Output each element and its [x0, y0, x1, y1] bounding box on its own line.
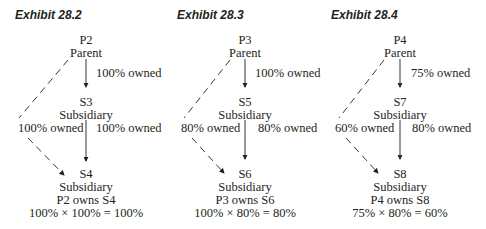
bottom-node: S8 Subsidiary P4 owns S8 75% × 80% = 60%	[340, 168, 460, 220]
exhibit-28-4: Exhibit 28.4 P4 Parent 75% owned S7 Subs…	[324, 0, 486, 229]
exhibit-28-2: Exhibit 28.2 P2 Parent 100% owned S3 Sub…	[0, 0, 162, 229]
parent-node: P4 Parent	[375, 34, 425, 60]
indirect-ownership-label: 80% owned	[181, 122, 240, 135]
exhibit-title: Exhibit 28.3	[177, 8, 244, 22]
exhibit-title: Exhibit 28.2	[15, 8, 82, 22]
node-role: Parent	[220, 47, 270, 60]
parent-to-middle-label: 75% owned	[411, 67, 470, 80]
middle-to-bottom-label: 100% owned	[96, 122, 162, 135]
exhibit-28-3: Exhibit 28.3 P3 Parent 100% owned S5 Sub…	[162, 0, 324, 229]
ownership-calc: 100% × 80% = 80%	[185, 207, 305, 220]
node-role: Parent	[375, 47, 425, 60]
parent-node: P2 Parent	[61, 34, 111, 60]
ownership-calc: 75% × 80% = 60%	[340, 207, 460, 220]
bottom-node: S6 Subsidiary P3 owns S6 100% × 80% = 80…	[185, 168, 305, 220]
middle-to-bottom-label: 80% owned	[258, 122, 317, 135]
parent-to-middle-label: 100% owned	[96, 67, 162, 80]
indirect-ownership-label: 60% owned	[335, 122, 394, 135]
ownership-calc: 100% × 100% = 100%	[26, 207, 146, 220]
node-role: Parent	[61, 47, 111, 60]
middle-node: S3 Subsidiary	[56, 96, 116, 122]
middle-to-bottom-label: 80% owned	[412, 122, 471, 135]
indirect-ownership-label: 100% owned	[18, 122, 84, 135]
bottom-node: S4 Subsidiary P2 owns S4 100% × 100% = 1…	[26, 168, 146, 220]
middle-node: S5 Subsidiary	[215, 96, 275, 122]
parent-to-middle-label: 100% owned	[255, 67, 321, 80]
parent-node: P3 Parent	[220, 34, 270, 60]
middle-node: S7 Subsidiary	[370, 96, 430, 122]
exhibit-title: Exhibit 28.4	[331, 8, 398, 22]
